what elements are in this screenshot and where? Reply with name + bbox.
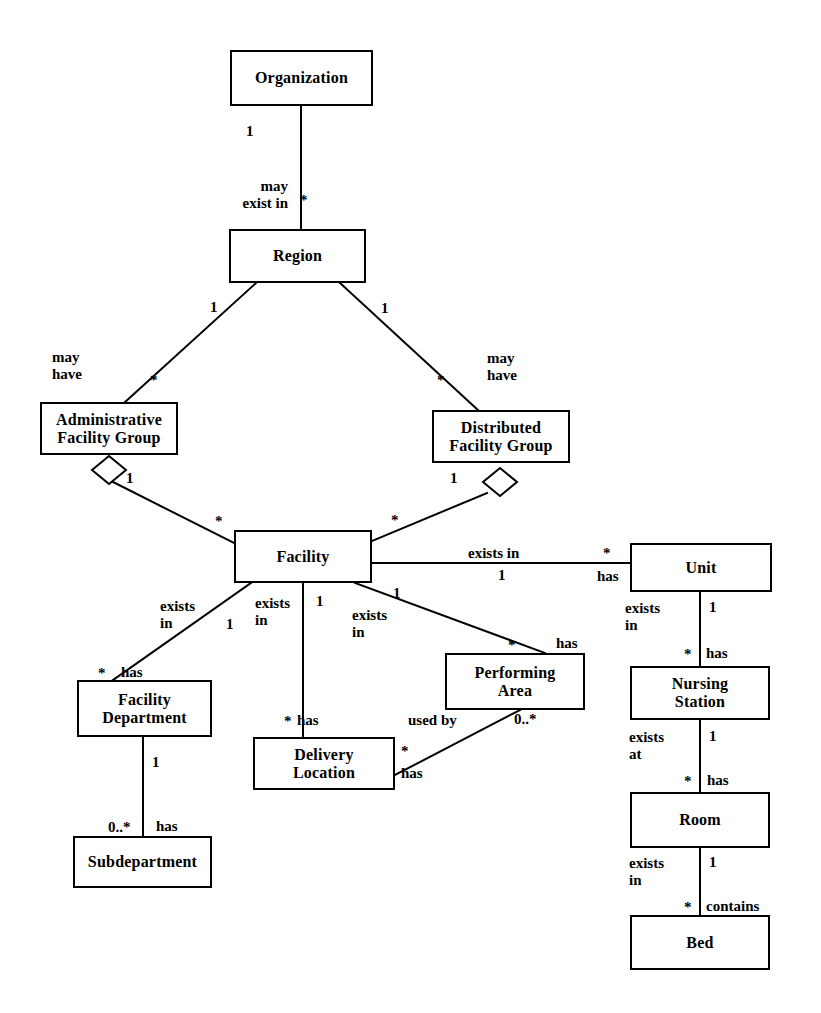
class-node-label: Facility (273, 548, 332, 566)
association-verb-label: exists in (352, 607, 387, 640)
class-node-performing-area[interactable]: Performing Area (445, 653, 585, 710)
multiplicity-label: 1 (393, 586, 401, 601)
multiplicity-label: * (603, 546, 611, 561)
association-line (125, 283, 256, 402)
multiplicity-label: * (150, 373, 158, 388)
multiplicity-label: 1 (381, 301, 389, 316)
multiplicity-label: 0..* (514, 712, 537, 727)
association-verb-label: has (706, 645, 728, 662)
association-verb-label: has (297, 712, 319, 729)
association-verb-label: has (707, 772, 729, 789)
multiplicity-label: 1 (709, 600, 717, 615)
class-node-label: Bed (683, 934, 716, 952)
class-node-room[interactable]: Room (630, 792, 770, 848)
class-node-label: Subdepartment (85, 853, 200, 871)
class-node-region[interactable]: Region (229, 229, 366, 283)
multiplicity-label: * (684, 774, 692, 789)
association-line (340, 283, 478, 410)
multiplicity-label: * (284, 714, 292, 729)
class-node-unit[interactable]: Unit (630, 543, 772, 592)
association-line (372, 493, 487, 541)
multiplicity-label: 1 (498, 568, 506, 583)
association-verb-label: may have (52, 349, 82, 382)
association-verb-label: may have (487, 350, 517, 383)
multiplicity-label: 1 (709, 855, 717, 870)
association-verb-label: exists in (629, 855, 664, 888)
association-verb-label: may exist in (243, 178, 288, 211)
class-node-facility[interactable]: Facility (234, 530, 372, 583)
multiplicity-label: 1 (450, 471, 458, 486)
multiplicity-label: * (98, 666, 106, 681)
class-node-label: Unit (682, 559, 719, 577)
class-node-facility-department[interactable]: Facility Department (77, 680, 212, 737)
aggregation-diamond-icon (483, 468, 517, 496)
multiplicity-label: * (401, 744, 409, 759)
multiplicity-label: 1 (316, 594, 324, 609)
class-node-label: Facility Department (99, 691, 190, 727)
class-node-label: Organization (252, 69, 351, 87)
class-node-organization[interactable]: Organization (230, 50, 373, 106)
diagram-canvas: OrganizationRegionAdministrative Facilit… (0, 0, 821, 1013)
association-verb-label: exists at (629, 729, 664, 762)
multiplicity-label: 1 (126, 471, 134, 486)
association-verb-label: has (121, 664, 143, 681)
association-verb-label: has (156, 818, 178, 835)
multiplicity-label: * (684, 900, 692, 915)
association-verb-label: contains (706, 898, 759, 915)
class-node-label: Delivery Location (290, 746, 358, 782)
class-node-dist-facility-group[interactable]: Distributed Facility Group (432, 410, 570, 463)
association-verb-label: has (556, 635, 578, 652)
class-node-nursing-station[interactable]: Nursing Station (630, 666, 770, 720)
association-verb-label: exists in (625, 600, 660, 633)
class-node-label: Room (676, 811, 724, 829)
multiplicity-label: * (508, 638, 516, 653)
multiplicity-label: 1 (226, 617, 234, 632)
multiplicity-label: 0..* (108, 820, 131, 835)
multiplicity-label: 1 (246, 124, 254, 139)
multiplicity-label: 1 (709, 729, 717, 744)
class-node-label: Performing Area (471, 664, 558, 700)
multiplicity-label: * (684, 647, 692, 662)
association-verb-label: exists in (160, 598, 195, 631)
class-node-label: Administrative Facility Group (53, 411, 165, 447)
class-node-bed[interactable]: Bed (630, 915, 770, 970)
aggregation-diamond-icon (92, 456, 126, 484)
multiplicity-label: 1 (210, 300, 218, 315)
multiplicity-label: * (300, 193, 308, 208)
association-verb-label: has (597, 568, 619, 585)
class-node-admin-facility-group[interactable]: Administrative Facility Group (40, 402, 178, 455)
association-verb-label: exists in (255, 595, 290, 628)
class-node-label: Distributed Facility Group (446, 419, 555, 455)
class-node-label: Region (270, 247, 325, 265)
class-node-label: Nursing Station (669, 675, 732, 711)
multiplicity-label: * (437, 373, 445, 388)
class-node-delivery-location[interactable]: Delivery Location (253, 737, 395, 790)
multiplicity-label: * (391, 513, 399, 528)
association-verb-label: used by (408, 712, 457, 729)
multiplicity-label: 1 (152, 755, 160, 770)
multiplicity-label: * (215, 514, 223, 529)
class-node-subdepartment[interactable]: Subdepartment (73, 836, 212, 888)
association-verb-label: has (401, 765, 423, 782)
association-verb-label: exists in (468, 545, 519, 562)
